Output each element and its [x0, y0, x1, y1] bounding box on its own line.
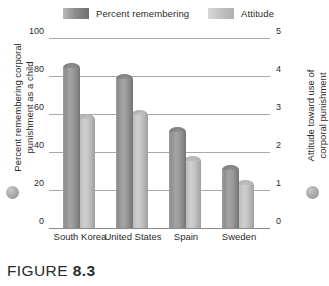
figure-caption: FIGURE 8.3 [7, 262, 95, 280]
bar-body [237, 185, 254, 228]
figure-caption-word: FIGURE [7, 262, 68, 279]
bar-body [116, 79, 133, 228]
figure-container: Percent remembering Attitude 100 80 60 4… [0, 0, 329, 286]
left-axis-tick-100: 100 [18, 27, 44, 36]
bar-group-spain [169, 38, 203, 228]
category-label-sweden: Sweden [208, 231, 270, 243]
bar-attitude-united-states [131, 110, 148, 228]
right-axis-tick-4: 4 [276, 65, 290, 74]
bar-attitude-sweden [237, 180, 254, 228]
right-axis-title: Attitude toward use of corporal punishme… [305, 46, 328, 186]
bar-group-south-korea [63, 38, 97, 228]
bar-body [78, 119, 95, 228]
left-axis-tick-0: 0 [18, 217, 44, 226]
left-axis-title-line2: punishment as a child [23, 38, 35, 178]
right-axis-title-line1: Attitude toward use of [305, 70, 316, 162]
right-axis-tick-2: 2 [276, 141, 290, 150]
bar-percent-remembering-sweden [222, 165, 239, 228]
legend-swatch-icon-percent-remembering [63, 8, 89, 19]
bar-body [131, 115, 148, 228]
bar-body [222, 170, 239, 228]
right-axis-title-line2: corporal punishment [316, 46, 328, 186]
category-label-text: Sweden [222, 231, 256, 242]
legend-label-attitude: Attitude [241, 8, 274, 19]
category-axis-labels: South Korea United States Spain Sweden [49, 231, 270, 261]
left-axis-title-line1: Percent remembering corporal [12, 43, 23, 171]
right-axis-tick-1: 1 [276, 179, 290, 188]
bar-attitude-spain [184, 156, 201, 228]
plot-area: 100 80 60 40 20 0 5 4 3 2 1 0 [49, 38, 270, 228]
bar-percent-remembering-south-korea [63, 63, 80, 228]
legend-entry-attitude: Attitude [208, 5, 274, 21]
category-label-text: Spain [174, 231, 198, 242]
right-axis-bullet-icon [306, 186, 319, 199]
bar-attitude-south-korea [78, 114, 95, 228]
figure-caption-number: 8.3 [73, 262, 96, 279]
category-label-text: United States [104, 231, 161, 242]
left-axis-title: Percent remembering corporal punishment … [12, 38, 35, 178]
legend-label-percent-remembering: Percent remembering [96, 8, 189, 19]
chart-legend: Percent remembering Attitude [0, 4, 329, 24]
bar-percent-remembering-united-states [116, 74, 133, 228]
bar-body [169, 132, 186, 228]
right-axis-tick-3: 3 [276, 103, 290, 112]
axis-baseline [49, 228, 270, 229]
right-axis-tick-0: 0 [276, 217, 290, 226]
left-axis-bullet-icon [6, 186, 19, 199]
bar-group-united-states [116, 38, 150, 228]
right-axis-tick-5: 5 [276, 27, 290, 36]
legend-swatch-icon-attitude [208, 8, 234, 19]
bar-series-container [49, 38, 270, 228]
bar-body [63, 68, 80, 228]
legend-entry-percent-remembering: Percent remembering [63, 5, 189, 21]
left-axis-tick-20: 20 [18, 179, 44, 188]
bar-group-sweden [222, 38, 256, 228]
category-label-text: South Korea [54, 231, 107, 242]
bar-body [184, 161, 201, 228]
bar-percent-remembering-spain [169, 127, 186, 228]
